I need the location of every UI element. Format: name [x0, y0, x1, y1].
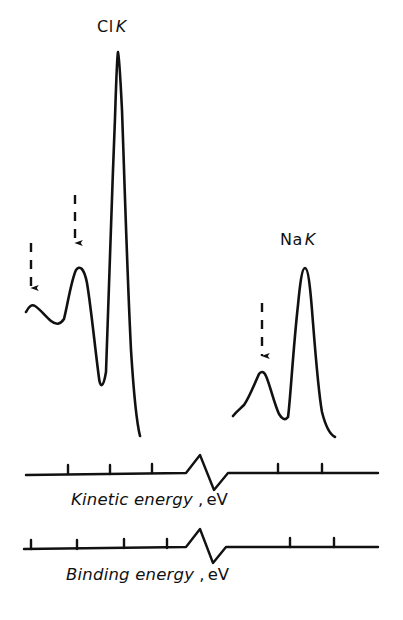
binding-energy-axis-caption: Binding energy,eV [66, 565, 229, 584]
kinetic-energy-axis-caption: Kinetic energy,eV [71, 490, 228, 509]
kinetic-caption-unit: eV [206, 490, 227, 509]
peak-label-cl-k: ClK [97, 17, 127, 36]
peak-label-na-shell: K [303, 230, 316, 249]
trace-cl-k-region [26, 52, 140, 436]
kinetic-caption-text: Kinetic energy [71, 490, 193, 509]
peak-label-cl-element: Cl [97, 17, 114, 36]
spectrum-drawing [0, 0, 403, 620]
kinetic-caption-comma: , [193, 490, 206, 509]
binding-caption-comma: , [194, 565, 207, 584]
peak-label-na-k: NaK [280, 230, 316, 249]
peak-label-cl-shell: K [114, 17, 127, 36]
trace-na-k-region [233, 268, 335, 437]
spectrum-figure: ClK NaK Kinetic energy,eV Binding energy… [0, 0, 403, 620]
binding-caption-unit: eV [208, 565, 229, 584]
peak-label-na-element: Na [280, 230, 303, 249]
kinetic-energy-axis-line [26, 455, 378, 490]
binding-caption-text: Binding energy [66, 565, 194, 584]
